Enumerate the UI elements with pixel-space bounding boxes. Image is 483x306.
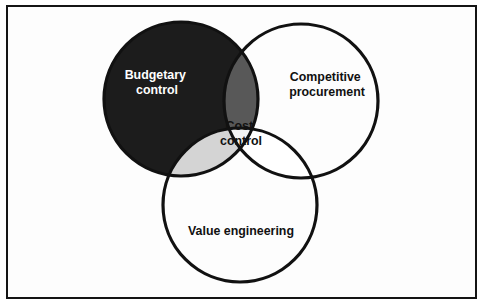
set-outline-value-engineering [163,128,317,282]
intersection-competitive-value [0,0,483,306]
label-cost-control-line1: Cost [226,119,254,133]
label-cost-control: Cost control [220,119,262,148]
intersection-budgetary-value [0,0,483,306]
label-competitive-procurement-line2: procurement [289,85,365,99]
label-value-engineering-line1: Value engineering [188,224,294,238]
intersection-budgetary-competitive [0,0,483,306]
label-value-engineering: Value engineering [188,224,294,238]
intersection-center [0,0,483,306]
label-cost-control-line2: control [220,134,262,148]
figure-frame: Budgetary control Competitive procuremen… [0,0,483,306]
venn-diagram: Budgetary control Competitive procuremen… [0,0,483,306]
label-budgetary-control-line1: Budgetary [125,68,186,82]
label-budgetary-control-line2: control [136,83,178,97]
label-competitive-procurement-line1: Competitive [290,70,361,84]
label-competitive-procurement: Competitive procurement [289,70,365,99]
